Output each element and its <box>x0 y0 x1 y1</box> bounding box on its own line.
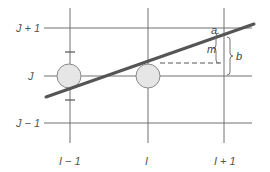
brace-b <box>227 37 233 75</box>
annotation-a: a <box>211 24 217 36</box>
row-label-j-minus-1: J − 1 <box>16 117 40 129</box>
annotation-b: b <box>236 50 242 62</box>
row-label-j-plus-1: J + 1 <box>16 22 40 34</box>
grid-diagram-graphic <box>0 0 270 172</box>
row-label-j: J <box>28 70 34 82</box>
col-label-i: I <box>145 155 148 167</box>
node-circle-i-j <box>136 64 160 88</box>
diagram: J + 1 J J − 1 I − 1 I I + 1 a m b <box>0 0 270 172</box>
annotation-m: m <box>207 43 216 55</box>
col-label-i-minus-1: I − 1 <box>59 155 81 167</box>
col-label-i-plus-1: I + 1 <box>214 155 236 167</box>
